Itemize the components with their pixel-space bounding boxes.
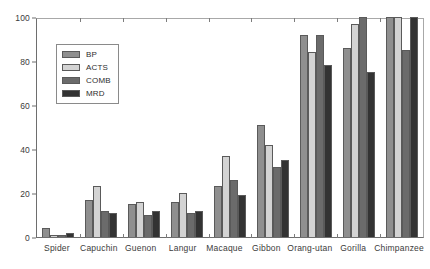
x-tick-mark	[294, 234, 295, 238]
bar	[324, 65, 332, 237]
bar-group	[380, 19, 423, 237]
y-axis: 020406080100	[0, 18, 36, 238]
legend-swatch	[62, 77, 80, 84]
y-tick-label: 40	[20, 145, 30, 155]
x-axis-label: Orang-utan	[287, 243, 332, 253]
y-tick-label: 80	[20, 57, 30, 67]
x-axis-label: Chimpanzee	[374, 243, 424, 253]
bar	[85, 200, 93, 237]
x-axis-label: Guenon	[120, 243, 162, 253]
bar	[386, 17, 394, 237]
x-tick-mark	[123, 234, 124, 238]
bar	[351, 24, 359, 237]
bar-group	[209, 19, 252, 237]
bar	[230, 180, 238, 237]
x-tick-mark	[380, 18, 381, 22]
bar-chart: 020406080100 SpiderCapuchinGuenonLangurM…	[0, 0, 430, 269]
x-tick-mark	[123, 18, 124, 22]
bar	[394, 17, 402, 237]
x-axis-label: Langur	[162, 243, 204, 253]
x-tick-mark	[337, 18, 338, 22]
bar	[50, 235, 58, 237]
x-tick-mark	[80, 234, 81, 238]
legend-label: ACTS	[86, 63, 108, 72]
legend-swatch	[62, 64, 80, 71]
bar	[144, 215, 152, 237]
bar	[402, 50, 410, 237]
bar	[179, 193, 187, 237]
bar	[265, 145, 273, 237]
bar-group	[337, 19, 380, 237]
bar	[281, 160, 289, 237]
legend-label: BP	[86, 50, 97, 59]
bar	[308, 52, 316, 237]
bar	[410, 17, 418, 237]
x-tick-mark	[209, 18, 210, 22]
legend-item: ACTS	[62, 63, 111, 72]
y-tick-label: 20	[20, 189, 30, 199]
x-tick-mark	[337, 234, 338, 238]
bar	[66, 233, 74, 237]
y-tick-label: 60	[20, 101, 30, 111]
bar	[300, 35, 308, 237]
legend: BPACTSCOMBMRD	[56, 44, 119, 104]
bar-group	[123, 19, 166, 237]
legend-swatch	[62, 51, 80, 58]
bar	[238, 195, 246, 237]
bar	[128, 204, 136, 237]
x-tick-mark	[166, 18, 167, 22]
bar	[214, 186, 222, 237]
bar	[42, 228, 50, 237]
x-tick-mark	[166, 234, 167, 238]
bar	[58, 235, 66, 237]
bar	[187, 213, 195, 237]
bar	[195, 211, 203, 237]
bar	[152, 211, 160, 237]
x-axis-label: Gorilla	[332, 243, 374, 253]
bar	[93, 186, 101, 237]
legend-label: COMB	[86, 76, 111, 85]
x-axis-labels: SpiderCapuchinGuenonLangurMacaqueGibbonO…	[36, 243, 424, 253]
x-tick-mark	[209, 234, 210, 238]
legend-item: COMB	[62, 76, 111, 85]
legend-item: BP	[62, 50, 111, 59]
bar	[222, 156, 230, 237]
bar	[316, 35, 324, 237]
legend-swatch	[62, 90, 80, 97]
bar-group	[294, 19, 337, 237]
bar-group	[166, 19, 209, 237]
bar	[109, 213, 117, 237]
y-tick-label: 100	[15, 13, 30, 23]
bar	[257, 125, 265, 237]
x-axis-label: Gibbon	[245, 243, 287, 253]
legend-label: MRD	[86, 89, 105, 98]
bar	[171, 202, 179, 237]
bar	[343, 48, 351, 237]
x-tick-mark	[80, 18, 81, 22]
x-axis-label: Spider	[36, 243, 78, 253]
legend-item: MRD	[62, 89, 111, 98]
bar	[367, 72, 375, 237]
y-tick-label: 0	[25, 233, 30, 243]
bar	[136, 202, 144, 237]
bar	[273, 167, 281, 237]
x-tick-mark	[294, 18, 295, 22]
x-tick-mark	[251, 18, 252, 22]
bar	[359, 17, 367, 237]
x-axis-label: Macaque	[204, 243, 246, 253]
x-tick-mark	[380, 234, 381, 238]
x-axis-label: Capuchin	[78, 243, 120, 253]
bar-group	[251, 19, 294, 237]
x-tick-mark	[251, 234, 252, 238]
bar	[101, 211, 109, 237]
